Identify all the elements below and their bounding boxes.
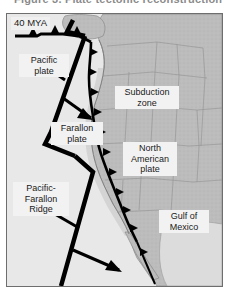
figure-panel: Figure 3. Plate tectonic reconstruction: [0, 0, 227, 300]
label-pacific-farallon-ridge: Pacific- Farallon Ridge: [13, 182, 69, 216]
label-subduction-zone: Subduction zone: [115, 86, 179, 109]
label-pacific-plate: Pacific plate: [19, 54, 69, 77]
label-farallon-plate: Farallon plate: [51, 122, 103, 145]
label-gulf-of-mexico: Gulf of Mexico: [159, 210, 209, 233]
figure-caption-text: Figure 3. Plate tectonic reconstruction: [14, 0, 222, 5]
age-label: 40 MYA: [11, 17, 50, 30]
label-north-american-plate: North American plate: [123, 142, 177, 176]
figure-caption-cropped: Figure 3. Plate tectonic reconstruction: [0, 0, 227, 11]
tectonic-map: 40 MYA Pacific plate Farallon plate Paci…: [6, 13, 223, 287]
